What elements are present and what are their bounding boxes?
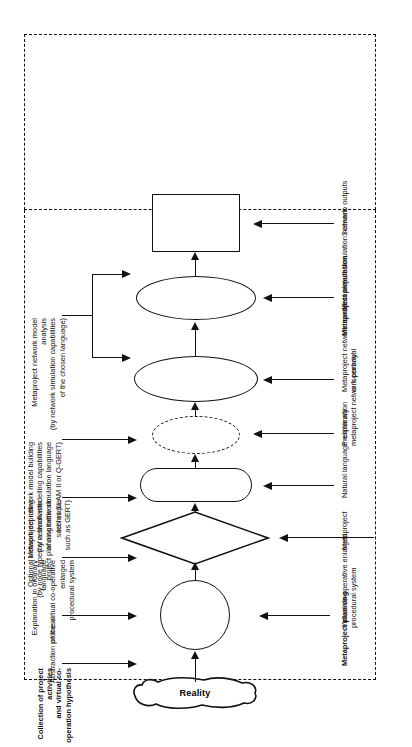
arrowhead-ellipse2-rect [191, 252, 199, 260]
out-arrowhead-scenario-outputs [253, 221, 262, 229]
feed-arrowhead-explanation [128, 555, 137, 563]
feed-arrow-optional-network [62, 497, 130, 498]
label-model-building: Metaproject network model building (by n… [26, 442, 63, 560]
feed-arrowhead-optional-network [128, 495, 137, 503]
rect-node-shape [152, 194, 240, 252]
label-scenario-outputs: Scenario outputs [340, 136, 349, 236]
out-arrowhead-metaproject [279, 535, 288, 543]
fork-arrowhead-right [122, 271, 131, 279]
arrowhead-circle-diamond [191, 562, 199, 570]
out-arrow-scenario-outputs [262, 223, 334, 224]
section-frame-simulation [24, 34, 376, 210]
ellipse-node-1-shape [134, 356, 258, 402]
diamond-node-shape [120, 510, 270, 566]
arrowhead-cloud-circle [191, 651, 199, 659]
dashed-ellipse-node-shape [152, 416, 240, 454]
out-arrowhead-natural-language [263, 483, 272, 491]
out-arrow-network-model-scenario [272, 379, 334, 380]
label-model-analysis: Metaproject network model analysis (by n… [30, 318, 67, 434]
arrowhead-ellipse1-ellipse2 [191, 322, 199, 330]
feed-arrowhead-model-building [128, 437, 137, 445]
out-arrow-metaproject [288, 537, 374, 538]
out-arrowhead-network-model-scenario [263, 377, 272, 385]
feed-arrowhead-collection [128, 661, 137, 669]
out-arrow-natural-language [272, 485, 334, 486]
feed-arrow-model-building [62, 439, 130, 440]
rounded-rect-node-shape [140, 468, 252, 502]
ellipse-node-2-shape [136, 276, 256, 320]
feed-arrowhead-abstraction [128, 613, 137, 621]
out-arrowhead-preliminary-portrayal [253, 431, 262, 439]
out-arrow-simulation-network [272, 297, 334, 298]
fork-arrowhead-left [122, 355, 131, 363]
feed-arrow-explanation [62, 557, 130, 558]
circle-node-shape [160, 580, 230, 650]
fork-bracket-model-analysis [92, 274, 128, 358]
out-arrowhead-simulation-network [263, 295, 272, 303]
fork-stem-model-analysis [62, 315, 92, 316]
arrowhead-dashed-ellipse1 [191, 402, 199, 410]
out-arrow-preliminary-portrayal [262, 433, 334, 434]
arrowhead-rrect-dashed [191, 454, 199, 462]
arrowhead-diamond-rrect [191, 503, 199, 511]
out-arrow-virtual-system [268, 615, 330, 616]
connector-cloud-circle [195, 658, 196, 682]
out-arrowhead-virtual-system [259, 613, 268, 621]
